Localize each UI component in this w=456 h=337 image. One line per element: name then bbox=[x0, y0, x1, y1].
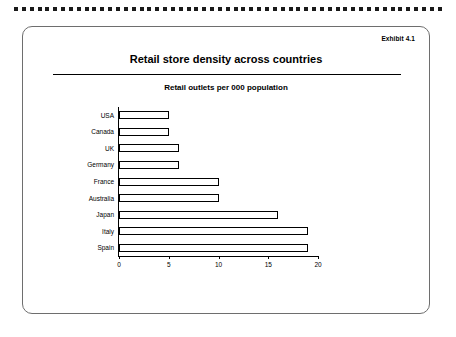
dot bbox=[336, 7, 340, 11]
x-tick bbox=[219, 256, 220, 259]
bar-row: Canada bbox=[119, 124, 318, 141]
dot bbox=[92, 7, 96, 11]
chart-area: USACanadaUKGermanyFranceAustraliaJapanIt… bbox=[23, 27, 431, 315]
bar-row: Germany bbox=[119, 157, 318, 174]
bar-row: Japan bbox=[119, 206, 318, 223]
dot bbox=[359, 7, 363, 11]
x-tick bbox=[119, 256, 120, 259]
category-label: USA bbox=[101, 112, 114, 119]
dot bbox=[210, 7, 214, 11]
dot bbox=[383, 7, 387, 11]
dot bbox=[406, 7, 410, 11]
dot bbox=[147, 7, 151, 11]
dot bbox=[320, 7, 324, 11]
dot bbox=[281, 7, 285, 11]
dot bbox=[218, 7, 222, 11]
dot bbox=[438, 7, 442, 11]
bar-row: UK bbox=[119, 140, 318, 157]
bar bbox=[119, 194, 219, 202]
decorative-dot-row bbox=[14, 6, 442, 12]
exhibit-card: Exhibit 4.1 Retail store density across … bbox=[22, 26, 430, 314]
dot bbox=[249, 7, 253, 11]
dot bbox=[304, 7, 308, 11]
dot bbox=[257, 7, 261, 11]
bar-chart-plot: USACanadaUKGermanyFranceAustraliaJapanIt… bbox=[118, 107, 318, 257]
bar-row: USA bbox=[119, 107, 318, 124]
category-label: Australia bbox=[89, 195, 114, 202]
category-label: Japan bbox=[96, 211, 114, 218]
dot bbox=[391, 7, 395, 11]
bar-rows: USACanadaUKGermanyFranceAustraliaJapanIt… bbox=[119, 107, 318, 256]
category-label: UK bbox=[105, 145, 114, 152]
dot bbox=[124, 7, 128, 11]
dot bbox=[163, 7, 167, 11]
x-tick-label: 0 bbox=[117, 261, 121, 268]
dot bbox=[375, 7, 379, 11]
dot bbox=[226, 7, 230, 11]
category-label: Germany bbox=[87, 161, 114, 168]
dot bbox=[85, 7, 89, 11]
dot bbox=[265, 7, 269, 11]
category-label: Spain bbox=[97, 244, 114, 251]
bar bbox=[119, 227, 308, 235]
bar-row: Spain bbox=[119, 240, 318, 257]
dot bbox=[108, 7, 112, 11]
screenshot-page: Exhibit 4.1 Retail store density across … bbox=[0, 0, 456, 337]
dot bbox=[77, 7, 81, 11]
dot bbox=[328, 7, 332, 11]
category-label: Canada bbox=[91, 128, 114, 135]
bar bbox=[119, 244, 308, 252]
dot bbox=[116, 7, 120, 11]
dot bbox=[367, 7, 371, 11]
dot bbox=[202, 7, 206, 11]
dot bbox=[398, 7, 402, 11]
dot bbox=[289, 7, 293, 11]
dot bbox=[45, 7, 49, 11]
dot bbox=[171, 7, 175, 11]
dot bbox=[187, 7, 191, 11]
dot bbox=[53, 7, 57, 11]
bar-row: Italy bbox=[119, 223, 318, 240]
dot bbox=[100, 7, 104, 11]
dot bbox=[22, 7, 26, 11]
dot bbox=[14, 7, 18, 11]
dot bbox=[422, 7, 426, 11]
x-tick-label: 10 bbox=[215, 261, 222, 268]
dot bbox=[312, 7, 316, 11]
dot bbox=[351, 7, 355, 11]
dot bbox=[61, 7, 65, 11]
dot bbox=[140, 7, 144, 11]
bar bbox=[119, 144, 179, 152]
x-tick bbox=[268, 256, 269, 259]
bar bbox=[119, 111, 169, 119]
bar bbox=[119, 161, 179, 169]
bar bbox=[119, 178, 219, 186]
bar bbox=[119, 211, 278, 219]
dot bbox=[296, 7, 300, 11]
dot bbox=[273, 7, 277, 11]
dot bbox=[343, 7, 347, 11]
category-label: France bbox=[94, 178, 114, 185]
dot bbox=[179, 7, 183, 11]
dot bbox=[194, 7, 198, 11]
x-tick-label: 20 bbox=[314, 261, 321, 268]
dot bbox=[155, 7, 159, 11]
dot bbox=[132, 7, 136, 11]
x-tick bbox=[169, 256, 170, 259]
dot bbox=[430, 7, 434, 11]
category-label: Italy bbox=[102, 228, 114, 235]
bar-row: France bbox=[119, 173, 318, 190]
dot bbox=[30, 7, 34, 11]
dot bbox=[241, 7, 245, 11]
bar bbox=[119, 128, 169, 136]
dot bbox=[69, 7, 73, 11]
x-tick-label: 15 bbox=[265, 261, 272, 268]
dot bbox=[414, 7, 418, 11]
dot bbox=[234, 7, 238, 11]
dot bbox=[38, 7, 42, 11]
x-tick bbox=[318, 256, 319, 259]
x-tick-label: 5 bbox=[167, 261, 171, 268]
bar-row: Australia bbox=[119, 190, 318, 207]
